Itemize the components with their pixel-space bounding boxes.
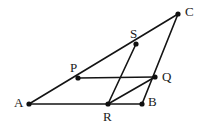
point-label-b: B (148, 95, 157, 108)
segment-b-c (142, 14, 178, 104)
point-label-c: C (185, 5, 194, 18)
geometry-canvas (0, 0, 205, 126)
vertex-dot-r (105, 101, 110, 106)
vertex-dot-a (26, 101, 31, 106)
point-label-s: S (130, 27, 137, 40)
point-label-r: R (103, 110, 112, 123)
segment-a-c (29, 14, 178, 104)
point-label-a: A (14, 96, 23, 109)
geometry-figure: A B C P Q R S (0, 0, 205, 126)
point-label-q: Q (162, 70, 171, 83)
vertex-dot-c (175, 11, 180, 16)
segment-group (29, 14, 178, 104)
vertex-dot-b (139, 101, 144, 106)
vertex-dot-q (152, 74, 157, 79)
segment-p-q (78, 77, 155, 78)
vertex-dot-s (133, 41, 138, 46)
point-label-p: P (70, 61, 77, 74)
vertex-dot-p (75, 75, 80, 80)
